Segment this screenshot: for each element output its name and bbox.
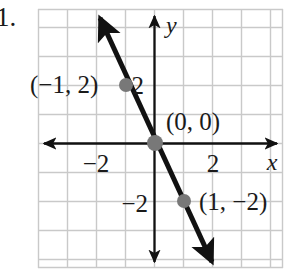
y-tick-label-neg2: −2 xyxy=(121,190,148,217)
point-label-1-neg2: (1, −2) xyxy=(199,188,267,216)
x-tick-label-neg2: −2 xyxy=(83,150,110,177)
y-axis-label: y xyxy=(164,12,177,38)
x-axis-label: x xyxy=(266,149,278,175)
point-label-0-0: (0, 0) xyxy=(166,108,220,136)
coordinate-plane-graph: (−1, 2) (0, 0) (1, −2) 2 −2 −2 2 y x xyxy=(0,0,291,277)
y-tick-label-2: 2 xyxy=(132,72,145,99)
graph-figure: 1. xyxy=(0,0,291,277)
point-label-neg1-2: (−1, 2) xyxy=(30,71,98,99)
data-point-0-0 xyxy=(147,135,163,151)
x-tick-label-2: 2 xyxy=(207,150,220,177)
data-point-1-neg2 xyxy=(177,194,191,208)
